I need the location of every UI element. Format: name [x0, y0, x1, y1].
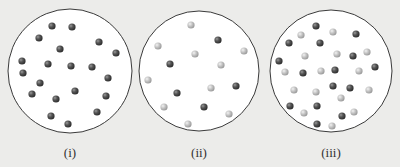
dark-particle — [93, 108, 100, 115]
light-particle — [217, 61, 224, 68]
dark-particle — [275, 57, 282, 64]
dark-particle — [299, 69, 306, 76]
dark-particle — [56, 45, 63, 52]
diagram-canvas — [0, 0, 400, 167]
dark-particle — [68, 23, 75, 30]
dark-particle — [312, 22, 319, 29]
dark-particle — [102, 92, 109, 99]
light-particle — [355, 67, 362, 74]
light-particle — [281, 68, 288, 75]
dark-particle — [28, 90, 35, 97]
dark-particle — [232, 82, 239, 89]
dark-particle — [18, 57, 25, 64]
dark-particle — [313, 102, 320, 109]
light-particle — [225, 110, 232, 117]
container-i — [8, 9, 132, 133]
dark-particle — [112, 49, 119, 56]
panel-label-ii: (ii) — [191, 145, 207, 161]
dark-particle — [88, 63, 95, 70]
dark-particle — [173, 89, 180, 96]
dark-particle — [285, 39, 292, 46]
dark-particle — [44, 60, 51, 67]
dark-particle — [346, 84, 353, 91]
dark-particle — [95, 38, 102, 45]
dark-particle — [329, 82, 336, 89]
light-particle — [337, 94, 344, 101]
dark-particle — [371, 63, 378, 70]
dark-particle — [36, 79, 43, 86]
container-ii — [139, 11, 259, 131]
dark-particle — [104, 74, 111, 81]
light-particle — [350, 108, 357, 115]
light-particle — [184, 120, 191, 127]
dark-particle — [166, 60, 173, 67]
light-particle — [207, 84, 214, 91]
light-particle — [301, 52, 308, 59]
dark-particle — [19, 69, 26, 76]
light-particle — [154, 42, 161, 49]
light-particle — [191, 50, 198, 57]
light-particle — [300, 109, 307, 116]
dark-particle — [338, 112, 345, 119]
panel-label-i: (i) — [64, 145, 76, 161]
panel-label-iii: (iii) — [321, 145, 341, 161]
light-particle — [290, 86, 297, 93]
light-particle — [144, 76, 151, 83]
light-particle — [317, 67, 324, 74]
dark-particle — [331, 66, 338, 73]
light-particle — [328, 122, 335, 129]
light-particle — [333, 50, 340, 57]
dark-particle — [349, 52, 356, 59]
dark-particle — [71, 87, 78, 94]
light-particle — [312, 88, 319, 95]
container-iii — [270, 10, 392, 132]
light-particle — [329, 28, 336, 35]
light-particle — [187, 21, 194, 28]
dark-particle — [35, 34, 42, 41]
dark-particle — [67, 62, 74, 69]
dark-particle — [352, 30, 359, 37]
light-particle — [160, 103, 167, 110]
light-particle — [297, 31, 304, 38]
dark-particle — [214, 36, 221, 43]
light-particle — [365, 86, 372, 93]
light-particle — [363, 48, 370, 55]
container-circle — [139, 11, 259, 131]
particle-diagram: (i) (ii) (iii) — [0, 0, 400, 167]
dark-particle — [52, 95, 59, 102]
dark-particle — [200, 103, 207, 110]
dark-particle — [48, 22, 55, 29]
dark-particle — [313, 120, 320, 127]
dark-particle — [286, 102, 293, 109]
dark-particle — [64, 120, 71, 127]
light-particle — [240, 47, 247, 54]
dark-particle — [316, 39, 323, 46]
dark-particle — [47, 112, 54, 119]
